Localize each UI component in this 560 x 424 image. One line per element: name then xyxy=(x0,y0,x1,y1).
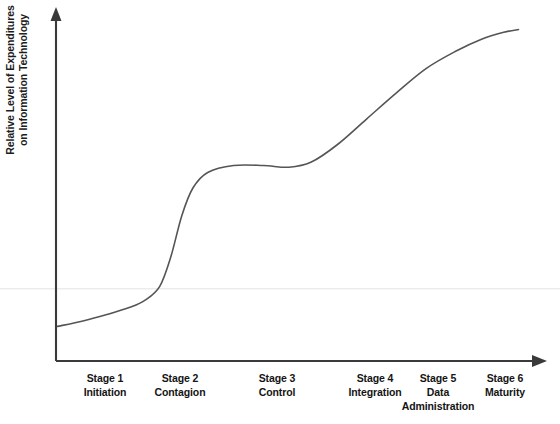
x-label-stage-3: Stage 3 Control xyxy=(259,371,296,399)
x-label-stage-6-stage: Stage 6 xyxy=(485,371,525,385)
y-axis-title-line-2: on Information Technology xyxy=(17,14,30,146)
x-label-stage-1-name: Initiation xyxy=(84,385,127,399)
y-axis-title: Relative Level of Expenditures on Inform… xyxy=(0,0,34,165)
x-label-stage-3-stage: Stage 3 xyxy=(259,371,296,385)
x-label-stage-6-name: Maturity xyxy=(485,385,525,399)
x-label-stage-5-stage: Stage 5 xyxy=(402,371,475,385)
x-label-stage-4: Stage 4 Integration xyxy=(348,371,401,399)
x-label-stage-2: Stage 2 Contagion xyxy=(154,371,205,399)
x-label-stage-2-stage: Stage 2 xyxy=(154,371,205,385)
x-label-stage-5: Stage 5 Data Administration xyxy=(402,371,475,414)
y-axis-title-line-1: Relative Level of Expenditures xyxy=(4,5,17,154)
x-axis-arrow xyxy=(56,355,547,367)
y-axis-arrow xyxy=(51,7,62,361)
x-label-stage-5-name2: Administration xyxy=(402,399,475,413)
nolan-stages-growth-chart: Relative Level of Expenditures on Inform… xyxy=(0,0,560,424)
x-label-stage-5-name: Data xyxy=(402,385,475,399)
chart-plot-area xyxy=(0,0,560,424)
x-label-stage-6: Stage 6 Maturity xyxy=(485,371,525,399)
expenditure-curve xyxy=(57,30,518,327)
x-label-stage-4-stage: Stage 4 xyxy=(348,371,401,385)
x-label-stage-4-name: Integration xyxy=(348,385,401,399)
x-label-stage-3-name: Control xyxy=(259,385,296,399)
x-label-stage-1-stage: Stage 1 xyxy=(84,371,127,385)
x-label-stage-1: Stage 1 Initiation xyxy=(84,371,127,399)
x-label-stage-2-name: Contagion xyxy=(154,385,205,399)
x-axis-labels: Stage 1 Initiation Stage 2 Contagion Sta… xyxy=(0,371,560,421)
